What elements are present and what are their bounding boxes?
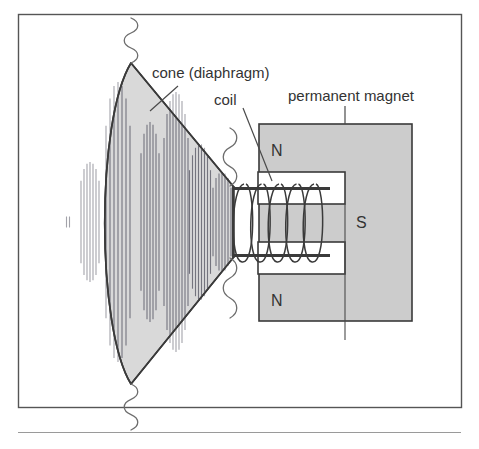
label-pole-north-bottom: N [271, 292, 283, 309]
label-cone: cone (diaphragm) [152, 64, 270, 81]
label-coil: coil [214, 91, 237, 108]
magnet-gap-bottom [258, 242, 345, 274]
label-pole-north-top: N [271, 142, 283, 159]
figure-canvas: cone (diaphragm) coil permanent magnet N… [0, 0, 479, 449]
label-pole-south-middle: S [356, 214, 367, 231]
label-permanent-magnet: permanent magnet [288, 87, 415, 104]
loudspeaker-diagram: cone (diaphragm) coil permanent magnet N… [0, 0, 479, 449]
